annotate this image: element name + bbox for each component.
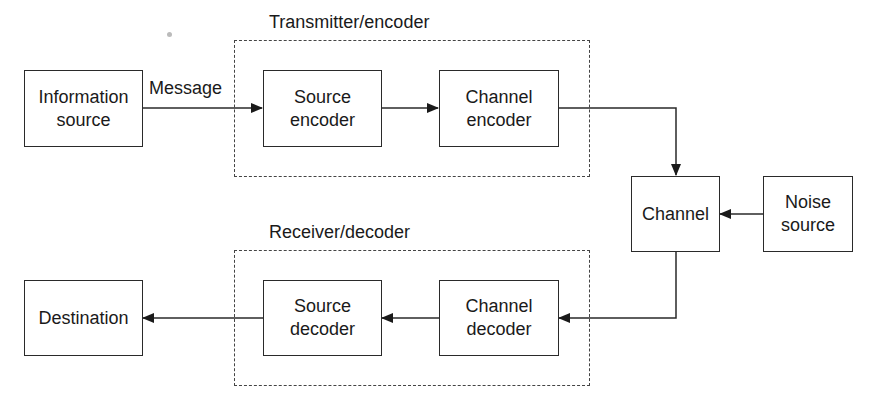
noise-source-block: Noisesource [763,176,853,252]
block-label: encoder [290,109,355,132]
destination-block: Destination [24,280,143,356]
block-label: source [781,214,835,237]
block-label: Channel [642,203,709,226]
block-label: Destination [38,307,128,330]
block-label: decoder [290,318,355,341]
block-label: Source [290,86,355,109]
block-label: Noise [781,191,835,214]
block-label: Channel [465,295,532,318]
diagram-canvas: Transmitter/encoder Receiver/decoder Mes… [0,0,873,412]
channel-encoder-block: Channelencoder [439,70,559,147]
source-encoder-block: Sourceencoder [263,70,382,147]
receiver-group-label: Receiver/decoder [269,222,410,243]
information-source-block: Informationsource [24,70,143,147]
block-label: encoder [465,109,532,132]
source-decoder-block: Sourcedecoder [263,280,382,356]
channel-block: Channel [631,176,720,252]
channel-decoder-block: Channeldecoder [439,280,559,356]
block-label: source [38,109,128,132]
block-label: Information [38,86,128,109]
message-label: Message [149,78,222,99]
transmitter-group-label: Transmitter/encoder [269,12,429,33]
block-label: decoder [465,318,532,341]
block-label: Source [290,295,355,318]
block-label: Channel [465,86,532,109]
